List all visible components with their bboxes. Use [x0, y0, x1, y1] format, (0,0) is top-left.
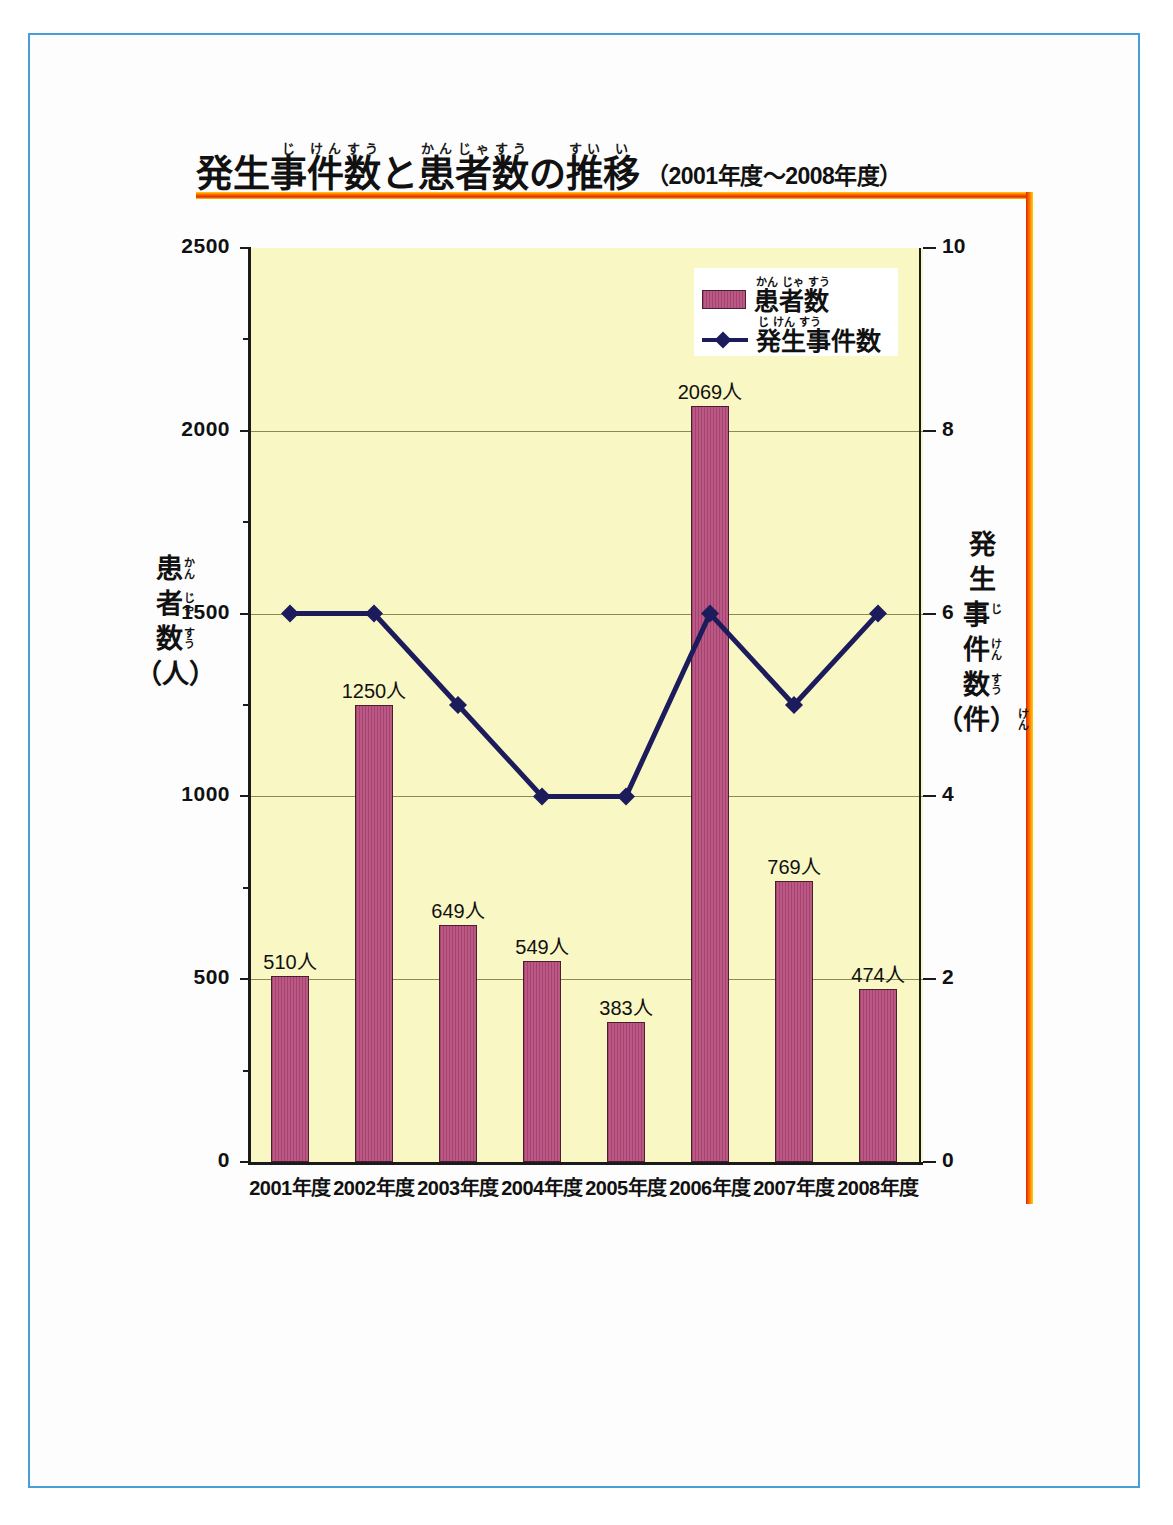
y-axis-right-tick-label: 10: [942, 234, 1002, 258]
legend-label: 患者数: [754, 288, 829, 314]
y-axis-right-tick-label: 8: [942, 417, 1002, 441]
y-axis-right-tick: [923, 613, 936, 615]
y-axis-left-tick-label: 1500: [120, 600, 230, 624]
y-axis-right-title-char: 数すう: [963, 668, 1002, 703]
y-axis-left-title-char: 数すう: [156, 622, 195, 657]
y-axis-right-tick-label: 6: [942, 600, 1002, 624]
y-axis-right-tick: [923, 247, 936, 249]
y-axis-right-title-char: 生: [969, 563, 996, 598]
y-axis-left-tick-label: 0: [120, 1148, 230, 1172]
legend-item: かんじゃすう患者数: [702, 274, 890, 314]
line-series-発生事件数: [248, 248, 920, 1162]
y-axis-left-title-char: （人）: [135, 657, 216, 692]
y-axis-right-title-char: 件けん: [963, 633, 1002, 668]
y-axis-left-tick-label: 500: [120, 965, 230, 989]
y-axis-right-tick-label: 2: [942, 965, 1002, 989]
y-axis-left-tick-label: 1000: [120, 782, 230, 806]
x-axis-tick-label: 2008年度: [823, 1172, 933, 1201]
y-axis-left-title-furigana: かん: [184, 558, 195, 580]
y-axis-right-title-furigana: けん: [1018, 709, 1029, 731]
line-marker-diamond: [281, 605, 299, 623]
legend-furigana: かんじゃすう: [754, 275, 832, 288]
y-axis-right-title-furigana: すう: [991, 674, 1002, 696]
line-marker-diamond: [617, 787, 635, 805]
chart-area: 患かん者じゃ数すう（人） 発生事じ件けん数すう（件）けん 05001000150…: [0, 0, 1173, 1525]
y-axis-left-tick-label: 2500: [120, 234, 230, 258]
y-axis-right-title: 発生事じ件けん数すう（件）けん: [944, 528, 1020, 739]
y-axis-right-title-char: 発: [969, 528, 996, 563]
y-axis-right-tick: [923, 430, 936, 432]
y-axis-left-tick-label: 2000: [120, 417, 230, 441]
chart-legend: かんじゃすう患者数じけんすう発生事件数: [694, 268, 898, 356]
y-axis-right-tick: [923, 1161, 936, 1163]
legend-line-marker-icon: [702, 330, 748, 350]
legend-furigana: じけんすう: [756, 315, 823, 328]
y-axis-right-tick: [923, 795, 936, 797]
y-axis-right-title-char: （件）けん: [936, 703, 1029, 738]
y-axis-left-title-char: 患かん: [156, 552, 195, 587]
legend-label: 発生事件数: [756, 328, 881, 354]
y-axis-left-title-furigana: すう: [184, 628, 195, 650]
legend-item: じけんすう発生事件数: [702, 314, 890, 354]
y-axis-right-title-furigana: けん: [991, 639, 1002, 661]
legend-bar-swatch-icon: [702, 290, 746, 309]
y-axis-right-tick-label: 4: [942, 782, 1002, 806]
page-root: 発 生じ事けん件すう数 とかん患じゃ者すう数 のすい推い移 （2001年度〜20…: [0, 0, 1173, 1525]
y-axis-right-tick-label: 0: [942, 1148, 1002, 1172]
